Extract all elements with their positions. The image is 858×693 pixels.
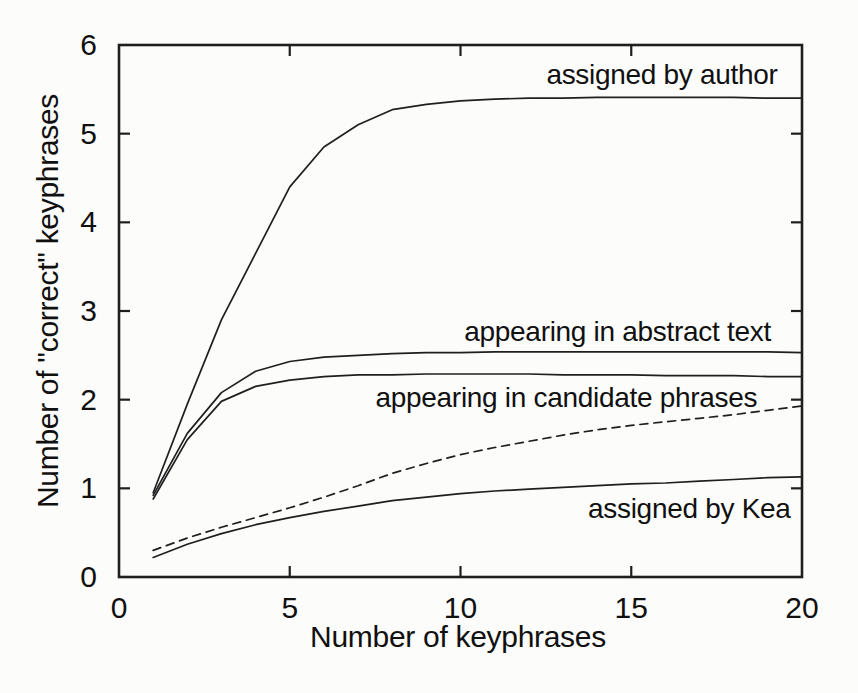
- curve-label-appearing-in-candidate-phrases: appearing in candidate phrases: [375, 382, 757, 414]
- curve-assigned-by-author: [153, 97, 802, 493]
- y-tick-label: 2: [80, 383, 97, 417]
- scanned-keyphrase-chart: Number of keyphrases Number of "correct"…: [0, 0, 858, 693]
- x-tick-label: 5: [281, 591, 298, 625]
- y-tick-label: 1: [80, 471, 97, 505]
- curve-label-assigned-by-kea: assigned by Kea: [588, 493, 791, 525]
- y-tick-label: 0: [80, 560, 97, 594]
- y-tick-label: 3: [80, 294, 97, 328]
- y-axis-title: Number of "correct" keyphrases: [31, 94, 65, 508]
- curve-label-assigned-by-author: assigned by author: [546, 59, 777, 91]
- curve-unlabeled-dashed-curve: [153, 406, 802, 551]
- x-tick-label: 10: [444, 591, 477, 625]
- x-tick-label: 15: [615, 591, 648, 625]
- y-tick-label: 6: [80, 28, 97, 62]
- y-tick-label: 5: [80, 117, 97, 151]
- x-axis-title: Number of keyphrases: [310, 620, 606, 654]
- x-tick-label: 0: [111, 591, 128, 625]
- curve-label-appearing-in-abstract-text: appearing in abstract text: [464, 316, 771, 348]
- x-tick-label: 20: [785, 591, 818, 625]
- y-tick-label: 4: [80, 205, 97, 239]
